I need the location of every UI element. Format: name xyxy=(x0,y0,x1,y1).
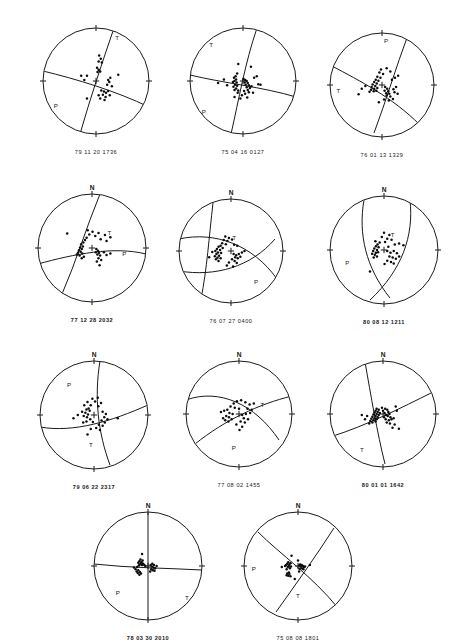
data-point xyxy=(240,399,243,402)
data-point xyxy=(394,405,397,408)
data-point xyxy=(107,90,110,93)
stereonet-panel: TP75 04 16 0127 xyxy=(176,14,310,164)
stereonet-panel: TPN77 12 28 2032 xyxy=(24,180,160,332)
data-point xyxy=(243,90,246,93)
data-point xyxy=(236,85,239,88)
data-point xyxy=(83,255,86,258)
data-point xyxy=(95,251,98,254)
data-point xyxy=(372,90,375,93)
data-point xyxy=(100,402,103,405)
data-point xyxy=(80,243,83,246)
data-point xyxy=(232,265,235,268)
data-point xyxy=(379,76,382,79)
data-point xyxy=(109,94,112,97)
data-point xyxy=(86,401,89,404)
data-point xyxy=(371,415,374,418)
data-point xyxy=(235,81,238,84)
data-point xyxy=(96,253,99,256)
data-point xyxy=(239,97,242,100)
data-point xyxy=(372,419,375,422)
data-point xyxy=(228,261,231,264)
data-point xyxy=(214,255,217,258)
data-point xyxy=(97,257,100,260)
data-point xyxy=(368,91,371,94)
data-point xyxy=(218,254,221,257)
data-point xyxy=(377,246,380,249)
data-point xyxy=(375,79,378,82)
data-point xyxy=(103,99,106,102)
data-point xyxy=(233,244,236,247)
t-axis-label: T xyxy=(360,446,364,453)
data-point xyxy=(96,67,99,70)
data-point xyxy=(231,413,234,416)
data-point xyxy=(97,232,100,235)
data-point xyxy=(387,411,390,414)
data-point xyxy=(232,402,235,405)
stereonet-plot: TPN xyxy=(172,347,306,481)
data-point xyxy=(99,429,102,432)
data-point xyxy=(222,239,225,242)
data-point xyxy=(217,246,220,249)
data-point xyxy=(374,240,377,243)
data-point xyxy=(97,94,100,97)
data-point xyxy=(245,80,248,83)
data-point xyxy=(138,573,141,576)
data-point xyxy=(244,401,247,404)
data-point xyxy=(373,411,376,414)
event-datetime-caption: 80 01 01 1642 xyxy=(316,482,450,488)
data-point xyxy=(111,85,114,88)
data-point xyxy=(284,565,287,568)
data-point xyxy=(375,407,378,410)
data-point xyxy=(214,250,217,253)
data-point xyxy=(368,422,371,425)
data-point xyxy=(388,419,391,422)
event-datetime-caption: 79 06 22 2317 xyxy=(26,484,162,490)
data-point xyxy=(366,415,369,418)
data-point xyxy=(83,79,86,82)
data-point xyxy=(376,416,379,419)
data-point xyxy=(370,86,373,89)
data-point xyxy=(383,231,386,234)
data-point xyxy=(246,407,249,410)
t-axis-label: T xyxy=(336,87,340,94)
data-point xyxy=(86,433,89,436)
data-point xyxy=(247,418,250,421)
data-point xyxy=(155,565,158,568)
data-point xyxy=(108,81,111,84)
stereonet-plot: TN xyxy=(316,347,450,481)
data-point xyxy=(394,76,397,79)
p-axis-label: P xyxy=(254,278,258,285)
data-point xyxy=(396,252,399,255)
data-point xyxy=(376,411,379,414)
data-point xyxy=(104,234,107,237)
data-point xyxy=(243,250,246,253)
data-point xyxy=(236,400,239,403)
data-point xyxy=(149,570,152,573)
data-point xyxy=(86,229,89,232)
data-point xyxy=(77,414,80,417)
data-point xyxy=(216,248,219,251)
data-point xyxy=(100,419,103,422)
data-point xyxy=(387,415,390,418)
data-point xyxy=(229,405,232,408)
data-point xyxy=(83,404,86,407)
t-axis-label: T xyxy=(115,34,119,41)
data-point xyxy=(226,240,229,243)
p-axis-label: P xyxy=(345,259,349,266)
data-point xyxy=(219,249,222,252)
data-point xyxy=(97,396,100,399)
p-axis-label: P xyxy=(122,250,126,257)
data-point xyxy=(237,63,240,66)
data-point xyxy=(233,96,236,99)
data-point xyxy=(223,410,226,413)
data-point xyxy=(285,568,288,571)
data-point xyxy=(364,85,367,88)
data-point xyxy=(384,241,387,244)
data-point xyxy=(360,87,363,90)
data-point xyxy=(104,96,107,99)
data-point xyxy=(91,231,94,234)
data-point xyxy=(386,260,389,263)
data-point xyxy=(90,428,93,431)
data-point xyxy=(241,414,244,417)
data-point xyxy=(371,421,374,424)
